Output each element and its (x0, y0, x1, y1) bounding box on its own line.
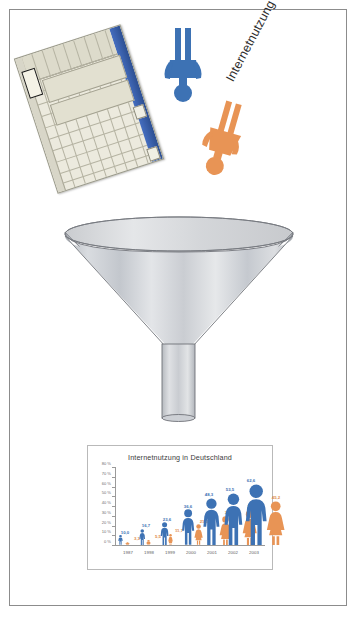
y-tick-label: 20 % (102, 519, 111, 524)
male-pictogram-icon (160, 26, 206, 110)
x-tick-label: 1987 (123, 550, 133, 555)
x-tick-label: 2003 (249, 550, 259, 555)
value-label-male: 48,3 (205, 492, 213, 497)
female-pictogram-icon (266, 501, 285, 545)
y-tick-label: 80 % (102, 461, 111, 466)
chart-panel: Internetnutzung in Deutschland 0 % 10 % … (87, 445, 273, 570)
x-tick-label: 2001 (207, 550, 217, 555)
value-label-male: 16,7 (142, 523, 150, 528)
value-label-male: 36,6 (184, 504, 192, 509)
chart-group-1999 (160, 467, 180, 545)
x-tick-label: 1999 (165, 550, 175, 555)
y-tick-label: 30 % (102, 509, 111, 514)
y-tick-label: 50 % (102, 490, 111, 495)
y-tick-label: 60 % (102, 480, 111, 485)
slide-canvas: Internetnutzung (0, 0, 358, 617)
male-pictogram-icon (139, 529, 146, 545)
x-tick-label: 1998 (144, 550, 154, 555)
value-label-male: 53,5 (226, 487, 234, 492)
x-tick-label: 2000 (186, 550, 196, 555)
female-pictogram-icon (198, 99, 246, 183)
value-label-male: 62,6 (247, 478, 255, 483)
value-label-male: 10,0 (121, 530, 129, 535)
y-tick-label: 0 % (104, 539, 111, 544)
male-pictogram-icon (118, 535, 123, 545)
y-tick-label: 40 % (102, 500, 111, 505)
value-label-female: 45,2 (272, 495, 280, 500)
funnel-icon (62, 196, 296, 422)
female-pictogram-icon (125, 542, 130, 545)
y-tick-label: 10 % (102, 529, 111, 534)
chart-plot-area: 0 % 10 % 20 % 30 % 40 % 50 % 60 % 70 % 8… (115, 468, 265, 546)
chart-group-2001 (202, 467, 222, 545)
male-pictogram-icon (223, 493, 244, 545)
chart-group-2002 (223, 467, 243, 545)
y-tick-label: 70 % (102, 470, 111, 475)
female-pictogram-icon (146, 540, 151, 545)
male-pictogram-icon (244, 484, 268, 545)
x-tick-label: 2002 (228, 550, 238, 555)
female-pictogram-icon (168, 534, 173, 545)
chart-title: Internetnutzung in Deutschland (88, 453, 272, 462)
value-label-male: 23,6 (163, 517, 171, 522)
x-axis (115, 545, 265, 546)
